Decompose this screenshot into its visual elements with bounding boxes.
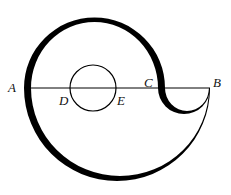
geometry-diagram: A B C D E [0,0,231,195]
label-c: C [144,75,153,90]
label-a: A [7,80,16,95]
small-semicircle-arc [158,88,210,114]
label-e: E [116,93,125,108]
label-d: D [58,93,69,108]
label-b: B [213,75,221,90]
